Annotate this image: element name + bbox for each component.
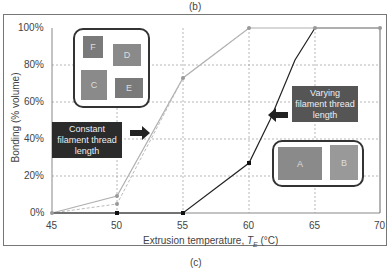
arrow-left-icon [268,108,288,122]
inset-parts-cdef: F D C E [73,28,150,108]
part-c: C [81,70,107,100]
part-e: E [115,78,143,98]
part-d: D [113,44,141,66]
x-axis-label: Extrusion temperature, TE (°C) [143,235,278,248]
part-a: A [278,147,322,180]
part-b: B [330,145,358,180]
caption-bottom: (c) [190,257,202,268]
arrow-right-icon [130,126,150,140]
part-f: F [83,36,103,58]
y-axis-label: Bonding (% volume) [10,63,21,173]
callout-varying: Varying filament thread length [292,86,358,122]
inset-parts-ab: A B [272,140,364,187]
callout-constant: Constant filament thread length [52,122,122,158]
